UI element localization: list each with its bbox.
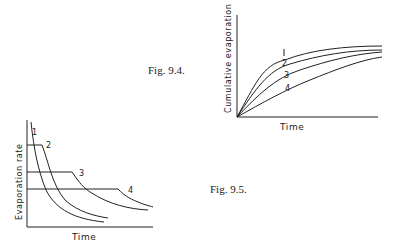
curve-1-label: 1 [32, 128, 37, 137]
curve-4-label: 4 [128, 186, 133, 195]
curve-1 [237, 46, 382, 117]
x-axis-label: Time [279, 122, 304, 132]
curve-2-label: 2 [282, 59, 287, 68]
curve-3-label: 3 [284, 71, 289, 80]
chart-cumulative-labels: 2 3 4 Cumulative evaporation Time [224, 4, 304, 132]
curve-2 [237, 50, 382, 117]
chart-evaporation-rate [27, 120, 153, 227]
chart-cumulative-evaporation [237, 15, 382, 117]
figures-canvas: 2 3 4 Cumulative evaporation Time 1 2 3 … [0, 0, 396, 247]
y-axis-label: Cumulative evaporation [224, 4, 233, 113]
curve-4-label: 4 [285, 84, 290, 93]
y-axis-label: Evaporation rate [15, 143, 24, 220]
curve-3-label: 3 [79, 169, 84, 178]
curve-2 [27, 145, 108, 218]
curve-2-label: 2 [46, 141, 51, 150]
x-axis-label: Time [71, 232, 96, 242]
